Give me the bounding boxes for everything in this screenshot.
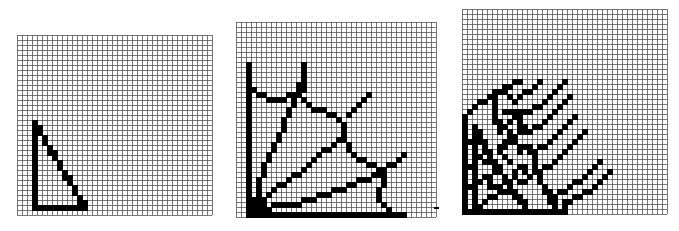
grid-lines [17, 35, 213, 216]
grid-panel-2 [236, 22, 437, 218]
grid-panel-1 [17, 35, 213, 216]
panel-1-grid [17, 35, 213, 216]
panel-3-grid [462, 9, 668, 215]
grid-panel-3 [462, 9, 668, 215]
stray-mark [434, 207, 439, 209]
panel-2-grid [236, 22, 437, 218]
